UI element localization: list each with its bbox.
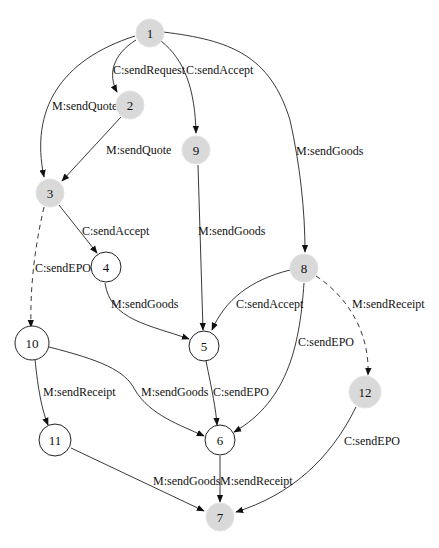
node-1[interactable]: 1 xyxy=(136,19,164,47)
edge-label-8-12: M:sendReceipt xyxy=(352,297,425,311)
node-label-7: 7 xyxy=(217,510,224,525)
node-7[interactable]: 7 xyxy=(206,503,234,531)
edge-label-1-2: C:sendRequest xyxy=(113,63,186,77)
node-label-9: 9 xyxy=(193,143,200,158)
node-6[interactable]: 6 xyxy=(205,425,235,455)
edge-label-3-10: C:sendEPO xyxy=(35,261,91,275)
node-label-6: 6 xyxy=(217,433,224,448)
node-12[interactable]: 12 xyxy=(349,376,381,408)
node-label-8: 8 xyxy=(301,261,308,276)
node-label-11: 11 xyxy=(49,433,62,448)
node-3[interactable]: 3 xyxy=(36,179,64,207)
node-9[interactable]: 9 xyxy=(182,136,210,164)
node-label-2: 2 xyxy=(127,98,134,113)
node-11[interactable]: 11 xyxy=(39,424,71,456)
edge-label-1-3: M:sendQuote xyxy=(52,99,117,113)
node-label-3: 3 xyxy=(47,186,54,201)
edge-label-4-5: M:sendGoods xyxy=(111,297,179,311)
edge-label-12-7: C:sendEPO xyxy=(344,434,400,448)
edge-9-5[interactable] xyxy=(198,165,203,330)
nodes: 1 2 3 4 5 6 7 8 xyxy=(15,19,381,531)
edge-label-2-3: M:sendQuote xyxy=(106,143,171,157)
edge-label-6-7: M:sendReceipt xyxy=(220,474,293,488)
node-4[interactable]: 4 xyxy=(91,252,121,282)
node-2[interactable]: 2 xyxy=(116,91,144,119)
node-8[interactable]: 8 xyxy=(290,254,318,282)
diagram-svg: C:sendRequest C:sendAccept M:sendQuote M… xyxy=(0,0,439,548)
edge-label-10-6: M:sendGoods xyxy=(141,385,209,399)
edge-label-5-6: C:sendEPO xyxy=(213,385,269,399)
node-label-1: 1 xyxy=(147,26,154,41)
edge-label-3-4: C:sendAccept xyxy=(82,224,150,238)
node-label-12: 12 xyxy=(359,385,372,400)
edge-label-11-7: M:sendGoods xyxy=(153,474,221,488)
edge-12-7[interactable] xyxy=(236,407,356,512)
edge-label-9-5: M:sendGoods xyxy=(198,224,266,238)
node-label-5: 5 xyxy=(201,339,208,354)
node-5[interactable]: 5 xyxy=(189,331,219,361)
node-10[interactable]: 10 xyxy=(15,326,49,360)
state-diagram: C:sendRequest C:sendAccept M:sendQuote M… xyxy=(0,0,439,548)
edge-label-8-5: C:sendAccept xyxy=(236,297,304,311)
edge-8-12[interactable] xyxy=(316,276,368,375)
node-label-10: 10 xyxy=(26,336,39,351)
node-label-4: 4 xyxy=(103,260,110,275)
edge-label-1-9: C:sendAccept xyxy=(186,63,254,77)
edge-4-5[interactable] xyxy=(105,283,189,339)
edge-1-9[interactable] xyxy=(161,41,196,133)
edge-label-1-8: M:sendGoods xyxy=(296,144,364,158)
edge-label-10-11: M:sendReceipt xyxy=(43,385,116,399)
edge-label-8-6: C:sendEPO xyxy=(298,335,354,349)
